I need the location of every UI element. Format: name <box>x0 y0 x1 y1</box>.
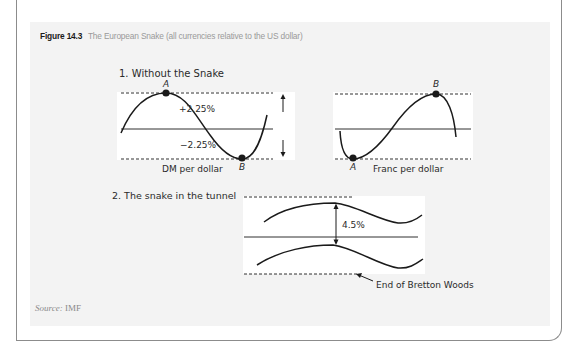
dm-chart: A B +2.25% −2.25% DM per dollar <box>121 79 286 174</box>
point-b-label: B <box>433 79 439 89</box>
down-arrow-head-icon <box>281 152 286 157</box>
panel1-title: 1. Without the Snake <box>119 68 224 79</box>
annotation-arrow-icon <box>360 276 373 282</box>
upper-band-label: +2.25% <box>179 104 216 114</box>
franc-chart: A B Franc per dollar <box>335 79 471 174</box>
band-arrow-up-icon <box>334 204 339 210</box>
snake-lower-curve <box>257 245 423 268</box>
panel2-title: 2. The snake in the tunnel <box>112 190 236 201</box>
source-label: Source: <box>35 303 63 313</box>
tunnel-chart: 4.5% End of Bretton Woods <box>244 197 474 290</box>
up-arrow-head-icon <box>281 94 286 99</box>
point-a-label: A <box>162 79 169 89</box>
dm-chart-label: DM per dollar <box>162 164 223 174</box>
band-arrow-down-icon <box>334 240 339 246</box>
annotation-label: End of Bretton Woods <box>376 280 474 290</box>
source-value: IMF <box>65 303 81 313</box>
snake-diagram: 1. Without the Snake A B +2.25% −2.25% D… <box>0 0 588 361</box>
point-a-marker <box>162 89 169 96</box>
franc-rate-curve <box>340 94 456 159</box>
franc-chart-label: Franc per dollar <box>373 164 444 174</box>
lower-band-label: −2.25% <box>180 140 217 150</box>
point-b-marker <box>432 90 439 97</box>
point-b-marker <box>238 154 245 161</box>
point-a-marker <box>349 154 356 161</box>
source-note: Source: IMF <box>35 303 81 313</box>
point-a-label: A <box>349 162 356 172</box>
band-width-label: 4.5% <box>342 220 365 230</box>
point-b-label: B <box>239 162 245 172</box>
